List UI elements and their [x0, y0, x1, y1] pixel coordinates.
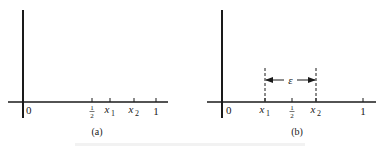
panel-a: 0 1 2 x 1 x 2 1	[8, 10, 168, 138]
tick-x1-label: x	[104, 103, 110, 115]
tick-x2-label: x	[128, 103, 134, 115]
epsilon-interval: ε	[266, 74, 315, 86]
origin-label: 0	[226, 104, 232, 116]
faint-caption-artifact	[75, 143, 305, 146]
tick-x1-subscript: 1	[266, 109, 270, 118]
tick-one: 1	[360, 98, 366, 117]
origin-label: 0	[26, 104, 32, 116]
diagram-canvas: 0 1 2 x 1 x 2 1	[0, 0, 384, 150]
tick-x2-label: x	[310, 103, 316, 115]
tick-half-numerator: 1	[290, 104, 294, 112]
tick-x1: x 1	[104, 98, 115, 118]
tick-half: 1 2	[90, 98, 95, 120]
tick-x2-subscript: 2	[317, 109, 321, 118]
tick-half-numerator: 1	[90, 104, 94, 112]
panel-b-caption: (b)	[291, 126, 303, 138]
tick-one-label: 1	[153, 105, 159, 117]
panel-a-caption: (a)	[91, 126, 102, 138]
tick-one-label: 1	[360, 105, 366, 117]
tick-x2: x 2	[128, 98, 139, 118]
tick-x2: x 2	[310, 98, 321, 118]
panel-b: 0 ε x 1 1 2	[207, 10, 376, 138]
tick-x2-subscript: 2	[135, 109, 139, 118]
tick-half-denominator: 2	[90, 112, 94, 120]
tick-x1-subscript: 1	[111, 109, 115, 118]
tick-half: 1 2	[290, 98, 295, 120]
tick-half-denominator: 2	[290, 112, 294, 120]
tick-one: 1	[153, 98, 159, 117]
figure: 0 1 2 x 1 x 2 1	[0, 0, 384, 150]
tick-x1-label: x	[259, 103, 265, 115]
epsilon-label: ε	[288, 74, 293, 86]
tick-x1: x 1	[259, 98, 270, 118]
